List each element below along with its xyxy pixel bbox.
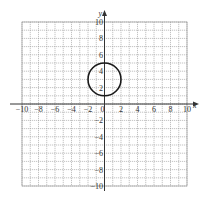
x-tick-label: 6 [152,105,156,114]
y-tick-label: −6 [94,149,103,158]
x-axis-label: x [192,101,197,110]
y-tick-label: −2 [94,116,103,125]
y-tick-label: 10 [95,18,103,27]
y-tick-label: −4 [94,133,103,142]
x-tick-label: −2 [84,105,93,114]
x-tick-label: 4 [136,105,140,114]
x-tick-label: 8 [169,105,173,114]
y-tick-label: −10 [90,182,103,191]
x-tick-label: 2 [119,105,123,114]
y-tick-label: 2 [99,84,103,93]
x-tick-label: −4 [67,105,76,114]
y-tick-label: 8 [99,34,103,43]
x-tick-label: 10 [183,105,191,114]
y-axis-label: y [98,9,103,18]
x-tick-label: −6 [51,105,60,114]
coordinate-plane: xy −10−8−6−4−20246810108642−2−4−6−8−10 [0,0,208,197]
y-tick-label: −8 [94,166,103,175]
x-tick-label: 0 [101,105,105,114]
y-tick-label: 6 [99,51,103,60]
y-tick-label: 4 [99,67,103,76]
x-tick-label: −8 [34,105,43,114]
y-axis-arrow-icon [102,10,107,16]
x-tick-label: −10 [16,105,29,114]
